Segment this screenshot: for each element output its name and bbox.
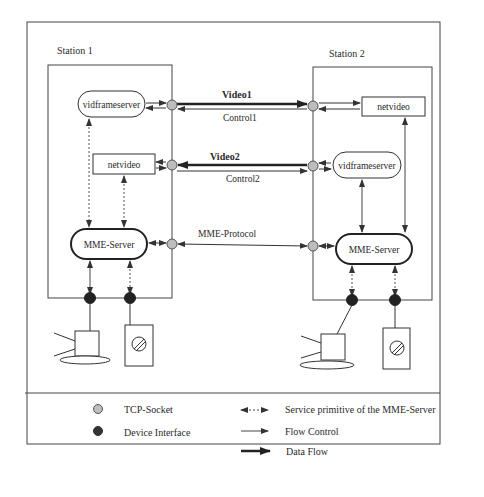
svg-text:netvideo: netvideo [377, 102, 410, 112]
station-1-title: Station 1 [57, 45, 93, 56]
svg-text:MME-Server: MME-Server [84, 240, 135, 250]
control2-connection: Control2 [177, 171, 307, 184]
legend: TCP-Socket Device Interface Service prim… [94, 404, 437, 457]
svg-text:Video2: Video2 [210, 151, 240, 162]
station-2-speaker-icon [383, 305, 410, 369]
legend-service-primitive: Service primitive of the MME-Server [241, 404, 436, 415]
svg-text:MME-Server: MME-Server [349, 245, 400, 255]
svg-text:TCP-Socket: TCP-Socket [124, 404, 173, 415]
station-2-mme-server: MME-Server [336, 234, 412, 264]
legend-flow-control: Flow Control [241, 426, 339, 437]
mme-protocol-connection: MME-Protocol [178, 229, 307, 246]
station-2-title: Station 2 [329, 48, 365, 59]
video1-connection: Video1 [177, 89, 307, 104]
station-2-camera-icon [300, 305, 354, 369]
station-2-vidframeserver: vidframeserver [333, 152, 401, 178]
video2-connection: Video2 [178, 151, 307, 165]
legend-tcp-socket: TCP-Socket [94, 404, 174, 415]
svg-text:Service primitive of the MME-S: Service primitive of the MME-Server [285, 404, 436, 415]
legend-device-interface: Device Interface [94, 427, 191, 439]
station-1-mme-server: MME-Server [71, 229, 147, 259]
device-interface-icons [85, 293, 401, 306]
station-1-netvideo: netvideo [93, 154, 155, 174]
legend-data-flow: Data Flow [241, 446, 329, 457]
svg-text:Device Interface: Device Interface [124, 427, 191, 438]
svg-text:netvideo: netvideo [108, 160, 141, 170]
svg-text:MME-Protocol: MME-Protocol [198, 229, 256, 239]
architecture-diagram: Station 1 Station 2 vidframeserver netvi… [0, 0, 484, 497]
station-1-speaker-icon [125, 303, 153, 366]
svg-text:Flow Control: Flow Control [285, 426, 339, 437]
station-1-camera-icon [54, 303, 110, 364]
svg-text:Data Flow: Data Flow [286, 446, 329, 457]
svg-text:Control2: Control2 [226, 174, 260, 184]
control1-connection: Control1 [178, 109, 307, 123]
svg-text:vidframeserver: vidframeserver [338, 161, 396, 171]
svg-text:Control1: Control1 [223, 113, 257, 123]
svg-text:vidframeserver: vidframeserver [83, 100, 141, 110]
station-2-netvideo: netvideo [362, 97, 425, 116]
svg-text:Video1: Video1 [222, 89, 252, 100]
station-1-vidframeserver: vidframeserver [78, 91, 145, 117]
